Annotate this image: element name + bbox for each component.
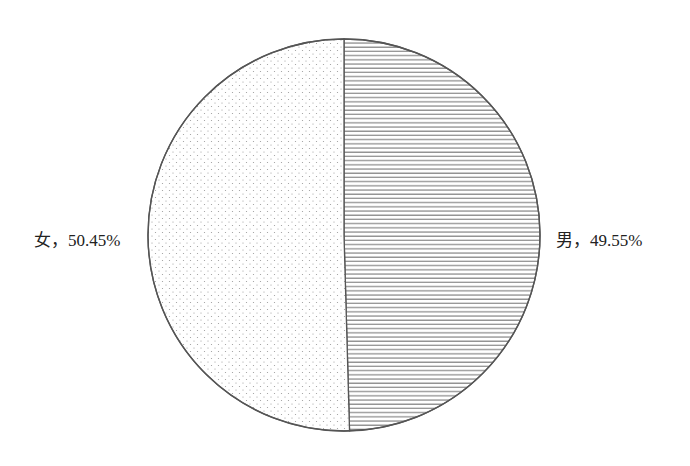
pie-slice-female (148, 39, 350, 431)
slice-label-male: 男，49.55% (556, 226, 642, 251)
pie-slices (148, 39, 540, 431)
pie-slice-male (344, 39, 540, 431)
pie-chart: 女，50.45% 男，49.55% (0, 0, 690, 466)
slice-label-female: 女，50.45% (34, 226, 120, 251)
